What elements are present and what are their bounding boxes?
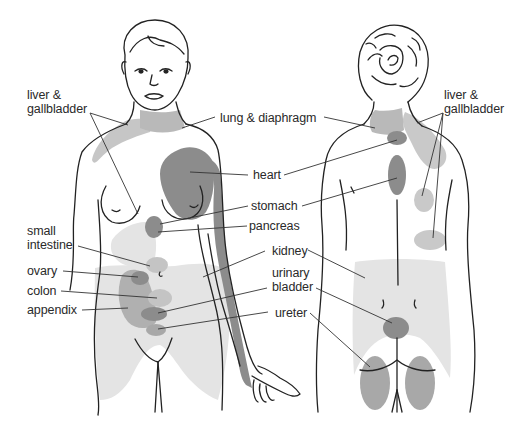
front-urinary-bladder-zone <box>141 307 167 321</box>
back-figure <box>317 25 475 412</box>
label-kidney: kidney <box>272 244 308 258</box>
label-urinary-line1: urinary <box>272 266 313 280</box>
label-small-intestine: small intestine <box>27 224 73 252</box>
label-gallbladder-line2: gallbladder <box>27 102 87 116</box>
label-ovary: ovary <box>27 264 57 278</box>
label-liver-gallbladder-back: liver & gallbladder <box>444 88 504 116</box>
label-urinary-bladder: urinary bladder <box>272 266 313 294</box>
label-heart: heart <box>253 168 281 182</box>
label-ureter: ureter <box>275 306 307 320</box>
label-intestine-line2: intestine <box>27 238 73 252</box>
label-appendix: appendix <box>27 303 77 317</box>
front-stomach-pancreas-zone <box>145 216 163 238</box>
label-liver-gallbladder-front: liver & gallbladder <box>27 88 87 116</box>
front-ovary-zone <box>131 271 149 285</box>
label-liver-back-line1: liver & <box>444 88 504 102</box>
label-small-line1: small <box>27 224 73 238</box>
label-pancreas: pancreas <box>249 219 300 233</box>
front-figure <box>70 20 300 415</box>
back-ureter-left-zone <box>360 356 390 410</box>
label-gallbladder-back-line2: gallbladder <box>444 102 504 116</box>
back-heart-zone <box>387 131 407 145</box>
back-ureter-right-zone <box>405 356 435 410</box>
label-stomach: stomach <box>251 199 298 213</box>
front-small-intestine-zone <box>146 257 168 273</box>
back-liver-spot-lower <box>414 230 446 250</box>
back-stomach-zone <box>388 155 406 195</box>
front-ureter-zone <box>146 324 166 336</box>
label-colon: colon <box>27 284 56 298</box>
back-outline <box>317 25 475 412</box>
back-lung-neck-zone <box>370 108 404 135</box>
referred-pain-diagram <box>0 0 529 429</box>
back-liver-spot-upper <box>414 188 434 212</box>
label-lung-diaphragm: lung & diaphragm <box>220 111 316 125</box>
label-bladder-line2: bladder <box>272 280 313 294</box>
front-lung-neck-zone <box>140 110 185 133</box>
front-heart-zone <box>160 147 214 220</box>
label-liver-line1: liver & <box>27 88 87 102</box>
